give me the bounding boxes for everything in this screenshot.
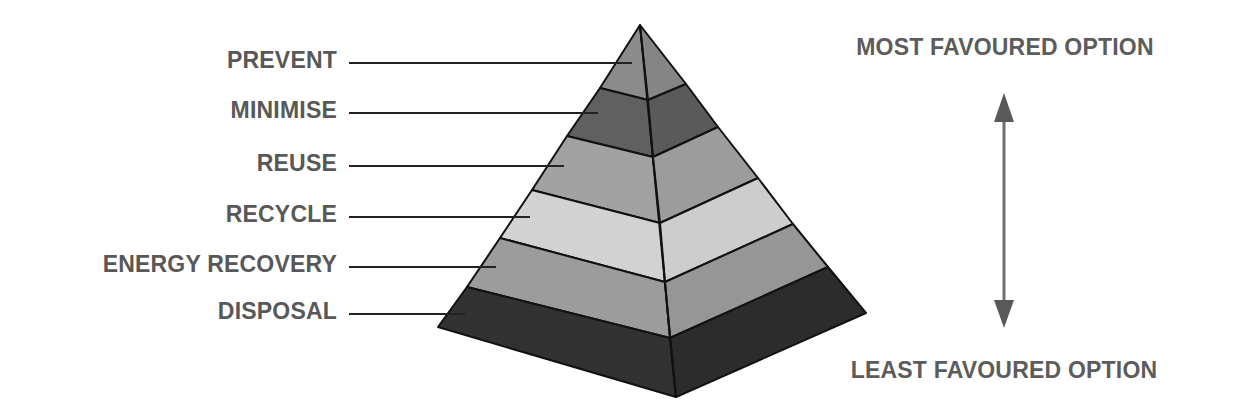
level-label-reuse: REUSE <box>257 150 337 176</box>
least-favoured-label: LEAST FAVOURED OPTION <box>851 357 1158 383</box>
pyramid <box>438 25 866 397</box>
level-label-minimise: MINIMISE <box>231 97 337 123</box>
level-label-disposal: DISPOSAL <box>218 298 337 324</box>
most-favoured-label: MOST FAVOURED OPTION <box>856 34 1153 60</box>
arrow-down-head <box>994 300 1014 328</box>
level-label-recycle: RECYCLE <box>226 201 337 227</box>
double-arrow-icon <box>994 93 1014 328</box>
waste-hierarchy-diagram: PREVENT MINIMISE REUSE RECYCLE ENERGY RE… <box>0 0 1235 419</box>
arrow-up-head <box>994 93 1014 122</box>
level-label-prevent: PREVENT <box>227 47 337 73</box>
level-label-energy-recovery: ENERGY RECOVERY <box>103 251 337 277</box>
